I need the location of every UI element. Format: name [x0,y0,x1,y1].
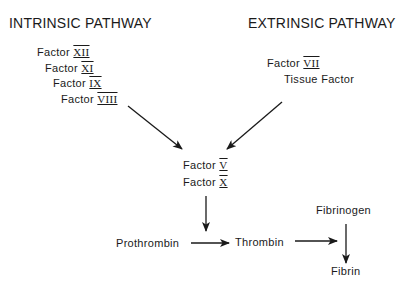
tissue-factor: Tissue Factor [284,73,354,85]
factor-numeral: XI [81,62,93,74]
factor-vii: Factor VII [267,57,320,69]
factor-numeral: X [219,176,227,188]
thrombin: Thrombin [235,236,284,248]
factor-label: Factor [37,46,70,58]
factor-label: Factor [61,93,94,105]
factor-ix: Factor IX [53,77,102,89]
arrow-extrinsic-to-common [227,102,282,149]
intrinsic-pathway-title: INTRINSIC PATHWAY [9,15,152,31]
factor-x: Factor X [183,176,228,188]
factor-label: Factor [183,176,216,188]
arrow-intrinsic-to-common [128,106,182,149]
factor-numeral: VIII [97,93,117,105]
factor-numeral: XII [73,46,89,58]
factor-viii: Factor VIII [61,93,117,105]
factor-label: Factor [53,77,86,89]
factor-numeral: VII [303,57,319,69]
fibrin: Fibrin [331,265,360,277]
factor-label: Factor [267,57,300,69]
factor-xi: Factor XI [45,62,94,74]
factor-xii: Factor XII [37,46,90,58]
arrows-layer [0,0,402,285]
fibrinogen: Fibrinogen [316,204,371,216]
factor-label: Factor [183,159,216,171]
factor-v: Factor V [183,159,228,171]
prothrombin: Prothrombin [116,237,179,249]
factor-numeral: IX [89,77,101,89]
factor-numeral: V [219,159,227,171]
factor-label: Factor [45,62,78,74]
extrinsic-pathway-title: EXTRINSIC PATHWAY [248,15,396,31]
